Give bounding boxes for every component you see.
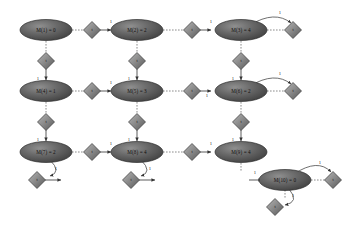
place-label: M(1) = 0 <box>36 27 56 34</box>
edge-weight-label: 1 <box>210 19 213 24</box>
place-label: M(5) = 3 <box>127 88 147 95</box>
edge-weight-label: 1 <box>254 170 257 175</box>
edge-weight-label: 1 <box>279 10 282 15</box>
place-label: M(3) = 4 <box>231 27 251 34</box>
edge-weight-label: 1 <box>206 93 209 98</box>
place-node[interactable]: M(9) = 4 <box>215 142 267 163</box>
edge-weight-label: 1 <box>110 19 113 24</box>
transition-node[interactable]: t <box>184 83 201 100</box>
nodes-layer: ttttttttttttttttttM(1) = 0M(2) = 2M(3) =… <box>20 20 342 216</box>
transition-node[interactable]: t <box>285 83 302 100</box>
place-node[interactable]: M(2) = 2 <box>111 20 163 41</box>
transition-node[interactable]: t <box>233 114 250 131</box>
place-label: M(6) = 2 <box>231 88 251 95</box>
transition-node[interactable]: t <box>84 144 101 161</box>
place-node[interactable]: M(1) = 0 <box>20 20 72 41</box>
edge-weight-label: 1 <box>37 76 40 81</box>
place-node[interactable]: M(3) = 4 <box>215 20 267 41</box>
transition-node[interactable]: t <box>38 114 55 131</box>
place-label: M(10) = 0 <box>274 177 297 184</box>
edge-weight-label: 1 <box>279 71 282 76</box>
transition-node[interactable]: t <box>123 172 140 189</box>
transition-node[interactable]: t <box>29 172 46 189</box>
wavy-connector-group <box>46 30 325 180</box>
edge-weight-label: 1 <box>232 76 235 81</box>
edge-weight-label: 1 <box>210 141 213 146</box>
place-node[interactable]: M(8) = 4 <box>111 142 163 163</box>
edge-weight-label: 1 <box>55 166 58 171</box>
transition-node[interactable]: t <box>184 22 201 39</box>
transition-node[interactable]: t <box>129 53 146 70</box>
transition-node[interactable]: t <box>38 53 55 70</box>
place-label: M(4) = 1 <box>36 88 56 95</box>
reachability-graph: ttttttttttttttttttM(1) = 0M(2) = 2M(3) =… <box>0 0 352 225</box>
place-node[interactable]: M(5) = 3 <box>111 81 163 102</box>
place-label: M(2) = 2 <box>127 27 147 34</box>
transition-node[interactable]: t <box>267 199 284 216</box>
transition-node[interactable]: t <box>84 83 101 100</box>
figure-canvas: ttttttttttttttttttM(1) = 0M(2) = 2M(3) =… <box>0 0 352 225</box>
edge-weight-label: 1 <box>128 76 131 81</box>
edge-weight-label: 1 <box>232 137 235 142</box>
transition-node[interactable]: t <box>285 22 302 39</box>
edge-weight-label: 1 <box>292 193 295 198</box>
transition-node[interactable]: t <box>84 22 101 39</box>
place-node[interactable]: M(10) = 0 <box>259 170 311 191</box>
edge-weight-label: 1 <box>110 141 113 146</box>
edge-weight-label: 1 <box>128 137 131 142</box>
place-label: M(8) = 4 <box>127 149 147 156</box>
edge-weight-label: 1 <box>37 137 40 142</box>
place-node[interactable]: M(6) = 2 <box>215 81 267 102</box>
edge-weight-label: 1 <box>110 80 113 85</box>
transition-node[interactable]: t <box>325 172 342 189</box>
transition-node[interactable]: t <box>233 53 250 70</box>
place-node[interactable]: M(4) = 1 <box>20 81 72 102</box>
place-node[interactable]: M(7) = 2 <box>20 142 72 163</box>
place-label: M(7) = 2 <box>36 149 56 156</box>
place-label: M(9) = 4 <box>231 149 251 156</box>
transition-node[interactable]: t <box>184 144 201 161</box>
edge-weight-label: 1 <box>319 160 322 165</box>
transition-node[interactable]: t <box>129 114 146 131</box>
edge-weight-label: 1 <box>149 166 152 171</box>
